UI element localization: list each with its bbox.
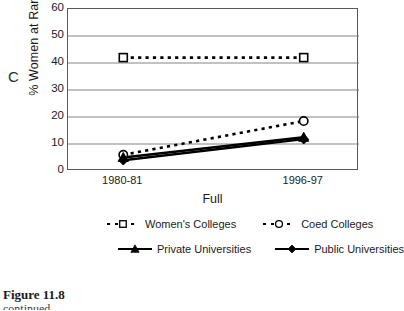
legend-item-women-s-colleges[interactable]: Women's Colleges: [106, 218, 236, 230]
data-point-marker: [300, 117, 308, 125]
y-axis-tick-labels: 0102030405060: [36, 0, 64, 180]
y-tick-label: 50: [38, 29, 64, 41]
data-point-marker: [300, 54, 308, 62]
y-tick-label: 30: [38, 83, 64, 95]
legend-row: Private UniversitiesPublic Universities: [60, 243, 380, 255]
legend-item-public-universities[interactable]: Public Universities: [275, 243, 404, 255]
y-tick-label: 0: [38, 164, 64, 176]
plot-area: [67, 8, 358, 170]
y-tick-label: 20: [38, 110, 64, 122]
figure-caption-title: Figure 11.8: [3, 288, 203, 303]
series-public-universities: [123, 139, 303, 160]
legend-item-label: Women's Colleges: [145, 218, 236, 230]
legend-item-label: Public Universities: [314, 243, 404, 255]
series-line: [123, 137, 303, 157]
x-tick-label: 1980-81: [102, 174, 142, 186]
legend-item-coed-colleges[interactable]: Coed Colleges: [262, 218, 373, 230]
series-line: [123, 139, 303, 160]
legend-key-icon: [262, 218, 296, 230]
panel-label: C: [8, 68, 19, 85]
legend-item-private-universities[interactable]: Private Universities: [118, 243, 251, 255]
legend-row: Women's CollegesCoed Colleges: [60, 218, 380, 230]
y-tick-label: 10: [38, 137, 64, 149]
figure-caption-subtitle: continued: [3, 303, 203, 310]
data-point-marker: [119, 54, 127, 62]
legend-key-icon: [118, 243, 152, 255]
y-tick-label: 60: [38, 2, 64, 14]
x-tick-label: 1996-97: [283, 174, 323, 186]
x-axis-tick-labels: 1980-811996-97: [67, 174, 358, 190]
data-point-marker: [120, 221, 127, 228]
data-point-marker: [288, 245, 296, 253]
legend-item-label: Private Universities: [157, 243, 251, 255]
chart-legend: Women's CollegesCoed CollegesPrivate Uni…: [60, 218, 380, 268]
x-axis-title: Full: [67, 192, 358, 206]
data-point-marker: [276, 221, 283, 228]
legend-key-icon: [106, 218, 140, 230]
legend-item-label: Coed Colleges: [301, 218, 373, 230]
legend-key-icon: [275, 243, 309, 255]
plot-svg: [68, 9, 359, 171]
figure-caption: Figure 11.8 continued: [3, 288, 203, 310]
y-tick-label: 40: [38, 56, 64, 68]
series-private-universities: [123, 137, 303, 157]
data-point-marker: [299, 134, 309, 144]
